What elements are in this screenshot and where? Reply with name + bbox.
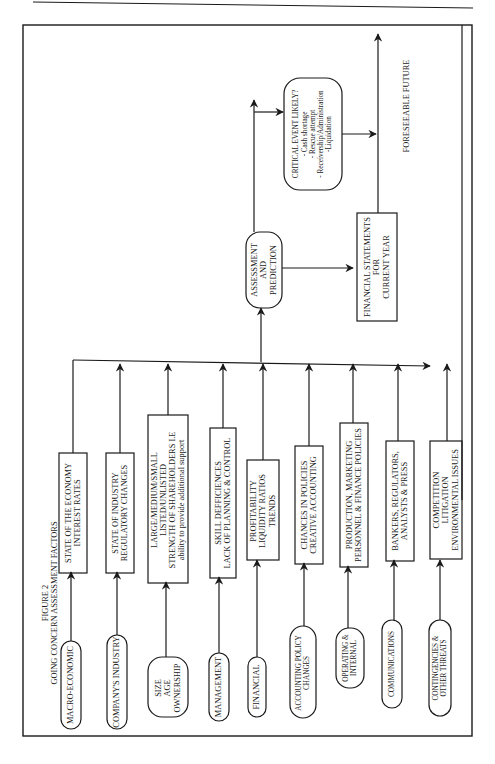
factor-bankers-regulators: BANKERS, REGULATORS, ANALYSTS & PRESS — [390, 441, 410, 561]
source-label: MANAGEMENT — [214, 657, 223, 717]
source-label: COMMUNICATIONS — [388, 631, 396, 697]
factor-label: ability to provide additional support — [177, 440, 186, 561]
foreseeable-future-label: FORESEEABLE FUTURE — [401, 56, 413, 156]
factor-state-of-industry: STATE OF INDUSTRY REGULATORY CHANGES — [110, 453, 130, 573]
assessment-label: ASSESSMENT — [250, 243, 259, 297]
source-label: OPERATING & — [342, 634, 350, 681]
factor-label: LISTED/UNLISTED — [159, 464, 168, 536]
source-financial: FINANCIAL — [250, 657, 264, 717]
source-label: CONTINGENCIES & — [432, 636, 440, 701]
source-label: MACRO-ECONOMIC — [66, 646, 75, 724]
critical-event-title: CRITICAL EVENT LIKELY? — [292, 90, 300, 178]
source-accounting-policy-changes: ACCOUNTING POLICY CHANGES — [294, 627, 312, 719]
fs-label: CURRENT YEAR — [382, 235, 391, 299]
factor-label: SKILL DEFFICIENCES — [214, 461, 223, 545]
factor-competition-litigation: COMPETITION LITIGATION ENVIRONMENTAL ISS… — [432, 441, 460, 559]
critical-event-likely: CRITICAL EVENT LIKELY? - Cash shortage -… — [292, 84, 334, 184]
factor-label: CREATIVE ACCOUNTING — [309, 456, 318, 553]
fs-label: FINANCIAL STATEMENTS — [363, 217, 372, 317]
factor-label: LITIGATION — [441, 477, 450, 524]
source-contingencies: CONTINGENCIES & OTHER THREATS — [431, 620, 449, 716]
factor-production-marketing: PRODUCTION, MARKETING PERSONNEL & FINANC… — [344, 423, 364, 567]
source-size-age-ownership: SIZE AGE OWNERSHIP — [154, 658, 182, 718]
factor-changes-in-policies: CHANCES IN POLICIES CREATIVE ACCOUNTING — [299, 446, 319, 564]
factor-label: COMPETITION — [432, 472, 441, 529]
assessment-and-prediction: ASSESSMENT AND PREDICTION — [250, 236, 278, 304]
assessment-label: AND — [259, 261, 268, 279]
fs-label: FOR — [372, 259, 381, 275]
critical-event-item: - Rescue attempt — [309, 110, 317, 158]
source-label: SIZE — [154, 679, 163, 697]
source-label: COMPANY'S INDUSTRY — [112, 636, 121, 727]
factor-label: LIQUIDITY RATIOS — [258, 474, 267, 548]
critical-event-item: - Receivership/Administration — [317, 90, 325, 177]
factor-label: STATE OF INDUSTRY — [111, 472, 120, 553]
factor-label: PERSONNEL & FINANCE POLICIES — [354, 428, 363, 562]
source-label: CHANGES — [303, 656, 311, 690]
factor-size-strength: LARGE/MEDIUM/SMALL LISTED/UNLISTED STREN… — [149, 416, 187, 584]
factor-label: INTEREST RATES — [73, 479, 82, 546]
factor-label: TRENDS — [268, 495, 277, 528]
factor-label: STATE OF THE ECONOMY — [64, 463, 73, 563]
critical-event-item: -Liquidation — [325, 116, 333, 152]
factor-label: ANALYSTS & PRESS — [400, 462, 409, 540]
factor-label: ENVIRONMENTAL ISSUES — [451, 449, 460, 551]
source-label: OWNERSHIP — [173, 664, 182, 713]
financial-statements-current-year: FINANCIAL STATEMENTS FOR CURRENT YEAR — [363, 213, 391, 321]
source-label: INTERNAL — [350, 640, 358, 676]
factor-label: BANKERS, REGULATORS, — [391, 451, 400, 551]
figure-number: FIGURE 2 — [41, 585, 50, 622]
factor-label: PROFITABILITY — [249, 480, 258, 542]
source-label: AGE — [163, 679, 172, 696]
factor-skill-deficiencies: SKILL DEFFICIENCES LACK OF PLANNING & CO… — [213, 428, 233, 578]
factor-profitability: PROFITABILITY LIQUIDITY RATIOS TRENDS — [249, 461, 277, 561]
factor-label: CHANCES IN POLICIES — [300, 461, 309, 550]
source-communications: COMMUNICATIONS — [385, 620, 399, 708]
factor-label: LARGE/MEDIUM/SMALL — [150, 452, 159, 548]
assessment-label: PREDICTION — [269, 245, 278, 295]
source-management: MANAGEMENT — [212, 653, 226, 721]
figure-title: GOING CONCERN ASSESSMENT FACTORS — [50, 521, 59, 684]
source-macro-economic: MACRO-ECONOMIC — [62, 641, 80, 729]
factor-label: REGULATORY CHANGES — [120, 465, 129, 562]
source-label: ACCOUNTING POLICY — [295, 635, 303, 710]
source-label: OTHER THREATS — [440, 639, 448, 696]
factor-label: PRODUCTION, MARKETING — [345, 441, 354, 549]
source-companys-industry: COMPANY'S INDUSTRY — [108, 635, 126, 729]
foreseeable-future-text: FORESEEABLE FUTURE — [402, 60, 411, 153]
factor-label: STRENGTH OF SHAREHOLDERS i.e — [168, 432, 177, 569]
factor-state-of-economy: STATE OF THE ECONOMY INTEREST RATES — [63, 453, 83, 573]
source-label: FINANCIAL — [252, 664, 261, 709]
critical-event-item: - Cash shortage — [301, 112, 309, 157]
source-operating-internal: OPERATING & INTERNAL — [341, 628, 359, 688]
figure-caption: FIGURE 2 GOING CONCERN ASSESSMENT FACTOR… — [37, 543, 63, 663]
factor-label: LACK OF PLANNING & CONTROL — [223, 438, 232, 569]
